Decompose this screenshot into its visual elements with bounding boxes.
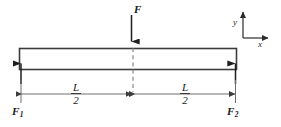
reaction-left-label: F1 xyxy=(12,106,23,117)
reaction-left-symbol: F xyxy=(12,105,19,117)
applied-force-label: F xyxy=(134,4,141,15)
figure-canvas xyxy=(0,0,281,127)
span-right-label: L 2 xyxy=(177,82,193,105)
span-right-denominator: 2 xyxy=(177,95,193,105)
reaction-right-label: F2 xyxy=(227,106,238,117)
reaction-left-subscript: 1 xyxy=(20,110,24,119)
axis-x-symbol: x xyxy=(258,39,262,49)
reaction-right-subscript: 2 xyxy=(235,110,239,119)
span-left-denominator: 2 xyxy=(68,95,84,105)
span-left-numerator: L xyxy=(68,82,84,92)
span-left-label: L 2 xyxy=(68,82,84,105)
axis-x-label: x xyxy=(258,40,262,49)
beam-diagram: F F1 F2 y x L 2 L 2 xyxy=(0,0,281,127)
span-right-numerator: L xyxy=(177,82,193,92)
axis-y-label: y xyxy=(233,18,237,27)
applied-force-symbol: F xyxy=(134,3,141,15)
beam-body xyxy=(20,49,237,70)
axis-y-symbol: y xyxy=(233,17,237,27)
reaction-right-symbol: F xyxy=(227,105,234,117)
